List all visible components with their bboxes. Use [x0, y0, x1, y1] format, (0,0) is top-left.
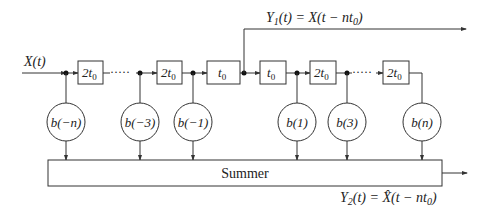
output2-label: Y2(t) = X̂(t − nt0)	[340, 190, 437, 207]
tap-b-minus-3: b(−3)	[121, 73, 159, 160]
input-label: X(t)	[23, 54, 46, 70]
ellipsis-left: ·····	[110, 65, 130, 79]
svg-text:b(−1): b(−1)	[178, 115, 208, 130]
tap-b-1: b(1)	[278, 73, 316, 160]
delay-box-5: 2t0	[310, 61, 336, 84]
delay-box-6: 2t0	[383, 61, 409, 84]
summer-label: Summer	[221, 166, 269, 181]
svg-text:b(3): b(3)	[336, 115, 358, 130]
tap-b-3: b(3)	[328, 73, 366, 160]
output1-label: Y1(t) = X(t − nt0)	[266, 10, 363, 27]
ellipsis-right: ·····	[352, 65, 372, 79]
svg-text:b(−n): b(−n)	[51, 115, 81, 130]
delay-box-2: 2t0	[157, 61, 182, 84]
summer-block: Summer	[48, 160, 442, 186]
tap-b-minus-n: b(−n)	[47, 73, 85, 160]
tap-b-n: b(n)	[403, 103, 441, 160]
svg-text:b(−3): b(−3)	[125, 115, 155, 130]
svg-text:b(n): b(n)	[411, 115, 433, 130]
delay-box-1: 2t0	[78, 61, 103, 84]
tapped-delay-line-diagram: X(t) ····· ····· Y1(t) = X(t − nt0) 2t0 …	[0, 0, 491, 215]
delay-box-4: t0	[260, 61, 286, 84]
tap-b-minus-1: b(−1)	[174, 73, 212, 160]
svg-text:b(1): b(1)	[286, 115, 308, 130]
delay-box-3: t0	[207, 61, 240, 84]
